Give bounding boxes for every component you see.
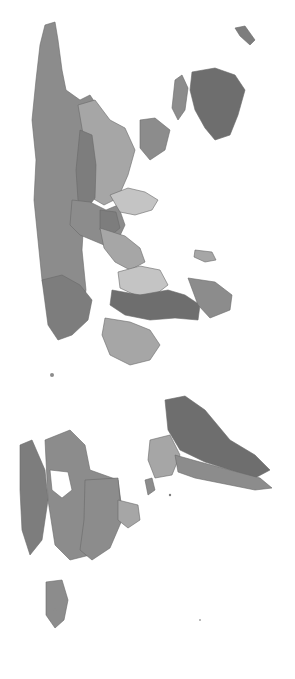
- region-alaska-canada-west: [20, 440, 48, 555]
- region-southern-africa: [102, 318, 160, 365]
- island: [169, 494, 171, 496]
- world-choropleth-map: [0, 0, 295, 679]
- region-central-america: [118, 500, 140, 528]
- region-indonesia: [140, 118, 170, 160]
- island: [50, 373, 54, 377]
- region-caribbean: [145, 478, 155, 495]
- region-mexico: [46, 580, 68, 628]
- region-central-africa: [110, 290, 200, 320]
- region-middle-east: [100, 228, 145, 270]
- region-madagascar: [194, 250, 216, 262]
- region-mongolia: [76, 130, 96, 210]
- region-japan: [172, 75, 188, 120]
- island: [54, 609, 57, 612]
- region-new-zealand: [235, 26, 255, 45]
- region-north-africa: [118, 266, 168, 295]
- region-usa: [80, 478, 122, 560]
- region-australia: [190, 68, 245, 140]
- island: [199, 619, 201, 621]
